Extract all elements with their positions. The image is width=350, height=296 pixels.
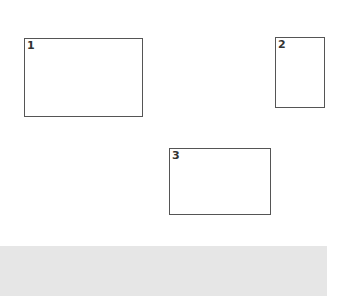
box-2-label: 2 <box>278 39 286 51</box>
gray-bar <box>0 246 327 296</box>
box-1: 1 <box>24 38 143 117</box>
box-3-label: 3 <box>172 150 180 162</box>
box-1-label: 1 <box>27 40 35 52</box>
box-3: 3 <box>169 148 271 215</box>
box-2: 2 <box>275 37 325 108</box>
